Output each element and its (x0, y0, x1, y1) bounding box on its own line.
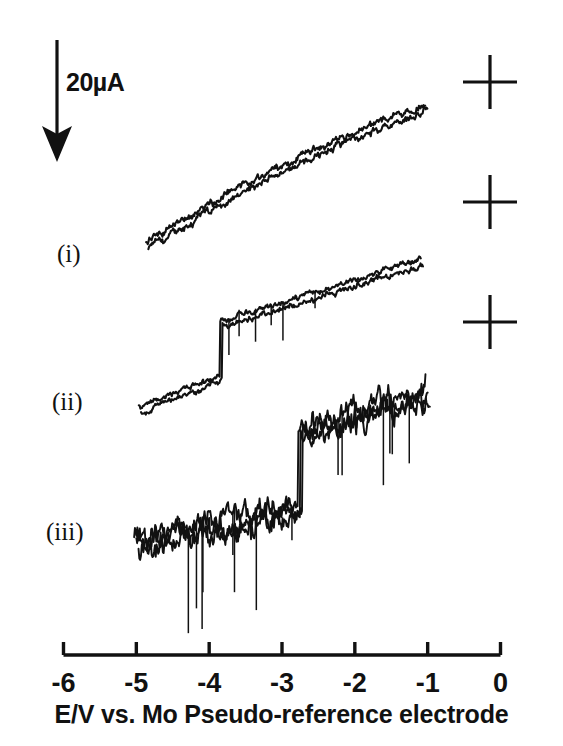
x-axis-tick-label: -6 (51, 668, 75, 699)
trace-label-iii: (iii) (46, 518, 84, 546)
x-axis-tick-label: -1 (416, 668, 440, 699)
x-axis-title: E/V vs. Mo Pseudo-reference electrode (55, 700, 509, 729)
trace-i (146, 105, 427, 249)
crosshair-mark (463, 175, 517, 229)
x-axis-tick-label: -2 (343, 668, 367, 699)
x-axis (64, 642, 501, 655)
x-axis-tick-label: -4 (197, 668, 221, 699)
x-axis-tick-label: 0 (493, 668, 508, 699)
trace-iii (134, 374, 430, 633)
crosshair-mark (463, 295, 517, 349)
trace-label-ii: (ii) (52, 388, 83, 416)
traces-group (134, 105, 430, 633)
plot-canvas (0, 0, 563, 746)
x-axis-tick-label: -5 (124, 668, 148, 699)
trace-label-i: (i) (57, 240, 81, 268)
down-arrow-icon (42, 40, 72, 162)
crosshair-marks-group (463, 55, 517, 349)
x-axis-tick-label: -3 (270, 668, 294, 699)
crosshair-mark (463, 55, 517, 109)
voltammogram-figure: 20µA (i) (ii) (iii) -6-5-4-3-2-10 E/V vs… (0, 0, 563, 746)
scale-bar-label: 20µA (66, 68, 124, 97)
